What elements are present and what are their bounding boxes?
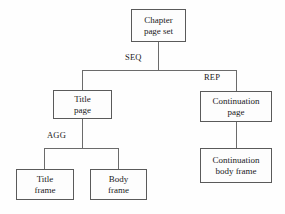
node-continuation-page[interactable]: Continuation page [200,91,272,122]
edge-label-agg: AGG [46,130,67,140]
edge-distribution-bar-top [82,70,237,71]
node-continuation-page-label: Continuation page [213,96,260,117]
node-title-page-label: Title page [74,94,91,115]
node-chapter-page-set-label: Chapter page set [144,15,173,36]
edge-bar-to-body-frame [118,148,119,169]
edge-title-page-to-bar [82,119,83,149]
edge-chapter-to-bar [158,42,159,71]
edge-bar-to-continuation-page [236,70,237,92]
edge-label-rep: REP [203,72,221,82]
node-title-frame[interactable]: Title frame [16,169,74,200]
node-body-frame[interactable]: Body frame [90,169,147,200]
edge-distribution-bar-agg [44,148,118,149]
edge-label-seq: SEQ [124,52,143,62]
node-body-frame-label: Body frame [108,174,129,195]
node-title-frame-label: Title frame [35,174,56,195]
node-chapter-page-set[interactable]: Chapter page set [131,9,186,42]
node-continuation-body-frame[interactable]: Continuation body frame [200,148,272,183]
edge-bar-to-title-frame [44,148,45,169]
edge-bar-to-title-page [82,70,83,91]
node-continuation-body-frame-label: Continuation body frame [213,155,260,176]
node-title-page[interactable]: Title page [53,90,112,119]
edge-continuation-page-to-body-frame [236,122,237,148]
diagram-canvas: Chapter page set Title page Continuation… [0,0,285,214]
